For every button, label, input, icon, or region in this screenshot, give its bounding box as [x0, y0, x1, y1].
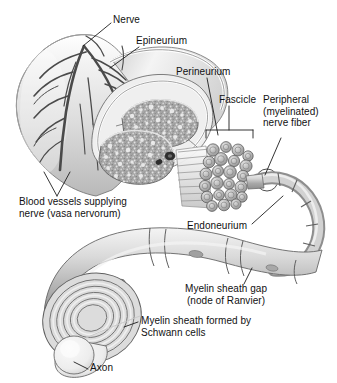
label-blood-vessels-line1: Blood vessels supplying — [19, 196, 127, 208]
label-myelin-gap-line2: (node of Ranvier) — [185, 295, 267, 307]
label-peripheral-nerve-fiber: Peripheral (myelinated) nerve fiber — [263, 94, 319, 129]
label-peripheral-line3: nerve fiber — [263, 117, 319, 129]
label-axon: Axon — [90, 362, 113, 374]
label-peripheral-line2: (myelinated) — [263, 106, 319, 118]
label-fascicle: Fascicle — [219, 94, 256, 106]
fascicle-bundle — [176, 142, 253, 212]
label-nerve: Nerve — [113, 14, 140, 26]
label-myelin-sheath: Myelin sheath formed by Schwann cells — [141, 315, 251, 338]
label-epineurium: Epineurium — [136, 35, 187, 47]
label-blood-vessels: Blood vessels supplying nerve (vasa nerv… — [19, 196, 127, 219]
fascicle-cross-section-lower — [99, 131, 174, 185]
label-peripheral-line1: Peripheral — [263, 94, 319, 106]
nerve-fiber-cut-ends — [199, 142, 253, 212]
label-myelin-sheath-gap: Myelin sheath gap (node of Ranvier) — [185, 283, 267, 306]
label-myelin-gap-line1: Myelin sheath gap — [185, 283, 267, 295]
label-myelin-sheath-line2: Schwann cells — [141, 327, 251, 339]
enlarged-myelinated-fiber — [29, 228, 322, 378]
label-endoneurium: Endoneurium — [187, 220, 247, 232]
label-perineurium: Perineurium — [176, 66, 230, 78]
nerve-anatomy-figure: Nerve Epineurium Perineurium Fascicle Pe… — [0, 0, 337, 383]
label-myelin-sheath-line1: Myelin sheath formed by — [141, 315, 251, 327]
label-blood-vessels-line2: nerve (vasa nervorum) — [19, 208, 127, 220]
